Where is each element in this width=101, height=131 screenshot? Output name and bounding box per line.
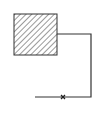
- diagram-canvas: [0, 0, 101, 131]
- hatched-block: [14, 14, 57, 55]
